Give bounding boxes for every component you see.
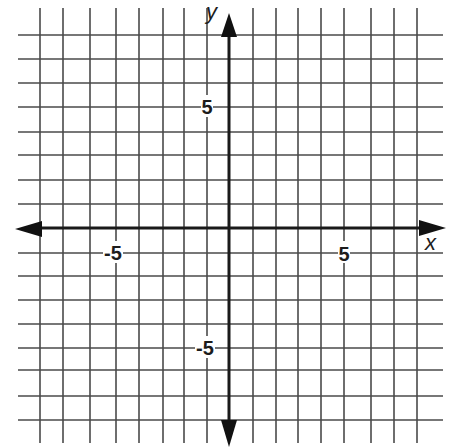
y-tick-label-neg5: -5 xyxy=(196,337,214,359)
coordinate-plane: y x 5 -5 5 -5 xyxy=(0,0,453,447)
y-axis-down-arrow-icon xyxy=(221,420,237,447)
x-axis-left-arrow-icon xyxy=(15,221,42,237)
y-axis-up-arrow-icon xyxy=(221,13,237,37)
y-tick-label-5: 5 xyxy=(201,96,212,118)
x-axis-label: x xyxy=(424,230,437,255)
x-tick-label-neg5: -5 xyxy=(104,242,122,264)
y-axis-label: y xyxy=(204,0,219,24)
x-tick-label-5: 5 xyxy=(338,243,349,265)
